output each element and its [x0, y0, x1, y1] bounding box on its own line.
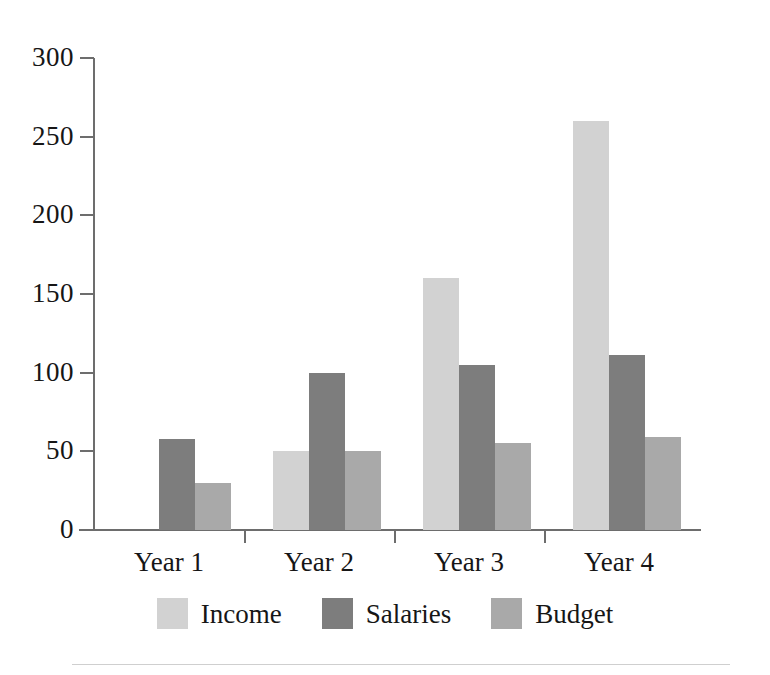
- legend-label: Salaries: [366, 600, 451, 628]
- bar-income-year-4: [573, 121, 609, 530]
- x-axis-category-label: Year 1: [89, 547, 249, 577]
- legend-label: Income: [201, 600, 282, 628]
- bar-group: [273, 58, 381, 530]
- bar-income-year-3: [423, 278, 459, 530]
- legend-label: Budget: [535, 600, 613, 628]
- y-axis-tick: [80, 136, 94, 138]
- y-axis-tick-value: 200: [8, 201, 74, 228]
- x-axis-category-label: Year 3: [389, 547, 549, 577]
- bar-budget-year-4: [645, 437, 681, 530]
- y-axis-tick-value: 250: [8, 123, 74, 150]
- legend-swatch-icon: [157, 598, 188, 629]
- y-axis-tick: [80, 214, 94, 216]
- bar-salaries-year-1: [159, 439, 195, 530]
- bar-salaries-year-3: [459, 365, 495, 530]
- y-axis-tick: [80, 293, 94, 295]
- y-axis-tick-label: 0: [0, 516, 74, 543]
- bar-chart: 050100150200250300 Year 1Year 2Year 3Yea…: [0, 0, 770, 675]
- bar-budget-year-1: [195, 483, 231, 530]
- y-axis-tick-label: 100: [0, 359, 74, 386]
- x-axis-category-label: Year 2: [239, 547, 399, 577]
- legend-swatch-icon: [491, 598, 522, 629]
- bar-group: [573, 58, 681, 530]
- bar-budget-year-3: [495, 443, 531, 530]
- bar-salaries-year-4: [609, 355, 645, 530]
- bar-group: [423, 58, 531, 530]
- x-axis-tick: [244, 530, 246, 543]
- legend-item-salaries[interactable]: Salaries: [322, 598, 451, 629]
- chart-legend: IncomeSalariesBudget: [0, 598, 770, 629]
- y-axis-tick-value: 50: [8, 437, 74, 464]
- y-axis-tick-value: 0: [8, 516, 74, 543]
- y-axis-tick-label: 300: [0, 44, 74, 71]
- y-axis-tick: [80, 372, 94, 374]
- y-axis-tick: [80, 57, 94, 59]
- legend-swatch-icon: [322, 598, 353, 629]
- y-axis-tick: [80, 529, 94, 531]
- y-axis-tick-label: 150: [0, 280, 74, 307]
- legend-item-income[interactable]: Income: [157, 598, 282, 629]
- bar-group: [123, 58, 231, 530]
- x-axis-category-label: Year 4: [539, 547, 699, 577]
- y-axis-tick-value: 100: [8, 359, 74, 386]
- y-axis-tick-value: 150: [8, 280, 74, 307]
- x-axis-tick: [544, 530, 546, 543]
- bar-salaries-year-2: [309, 373, 345, 530]
- y-axis-tick-label: 250: [0, 123, 74, 150]
- y-axis-tick-value: 300: [8, 44, 74, 71]
- y-axis-tick-label: 50: [0, 437, 74, 464]
- x-axis-tick: [394, 530, 396, 543]
- plot-area: [94, 58, 694, 530]
- y-axis-tick: [80, 450, 94, 452]
- legend-item-budget[interactable]: Budget: [491, 598, 613, 629]
- bar-income-year-2: [273, 451, 309, 530]
- page-rule: [72, 664, 730, 665]
- y-axis-tick-label: 200: [0, 201, 74, 228]
- bar-budget-year-2: [345, 451, 381, 530]
